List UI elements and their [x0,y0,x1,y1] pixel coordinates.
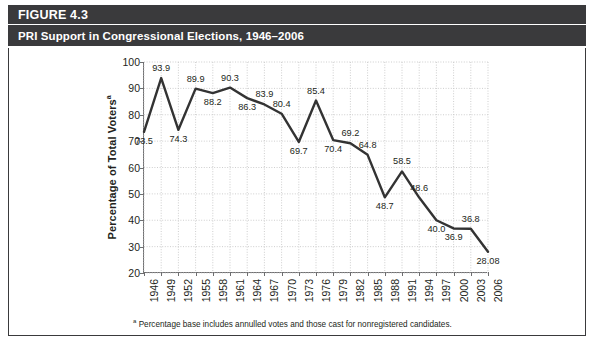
data-point-label: 86.3 [238,102,256,112]
x-axis-tick-mark [230,272,231,276]
data-point-label: 93.9 [152,63,170,73]
y-axis-tick-label: 100 [122,56,140,68]
x-axis-tick-mark [385,272,386,276]
x-axis-tick-label: 1991 [406,279,418,302]
x-axis-tick-mark [161,272,162,276]
x-axis-tick-mark [264,272,265,276]
x-axis-tick-label: 2000 [458,279,470,302]
x-axis-tick-label: 1961 [234,279,246,302]
x-axis-tick-mark [402,272,403,276]
y-axis-tick-mark [140,194,144,195]
x-axis-tick-mark [144,272,145,276]
y-axis-title-text: Percentage of Total Voters [105,99,117,239]
x-axis-tick-label: 1976 [320,279,332,302]
x-axis-tick-label: 1970 [286,279,298,302]
figure-container: FIGURE 4.3 PRI Support in Congressional … [0,0,594,347]
x-axis-tick-mark [196,272,197,276]
data-point-label: 89.9 [187,74,205,84]
y-axis-tick-label: 20 [128,267,140,279]
x-axis-tick-label: 2003 [475,279,487,302]
x-axis-tick-mark [419,272,420,276]
x-axis-tick-label: 1973 [303,279,315,302]
x-axis-tick-mark [471,272,472,276]
x-axis-tick-mark [299,272,300,276]
x-axis-tick-label: 1988 [389,279,401,302]
x-axis-tick-mark [247,272,248,276]
x-axis-tick-label: 2006 [492,279,504,302]
y-axis-tick-mark [140,220,144,221]
data-point-label: 48.6 [410,183,428,193]
data-point-label: 83.9 [255,89,273,99]
data-point-label: 80.4 [273,99,291,109]
data-point-label: 40.0 [427,224,445,234]
x-axis-tick-label: 1946 [148,279,160,302]
y-axis-tick-label: 40 [128,214,140,226]
y-axis-tick-label: 50 [128,188,140,200]
x-axis-tick-mark [316,272,317,276]
x-axis-tick-mark [178,272,179,276]
x-axis-tick-label: 1958 [217,279,229,302]
data-point-label: 36.8 [462,214,480,224]
data-point-label: 85.4 [307,86,325,96]
data-point-label: 90.3 [221,73,239,83]
x-axis-tick-mark [350,272,351,276]
x-axis-tick-label: 1979 [337,279,349,302]
plot-region: 2030405060708090100 19461949195219551958… [143,62,487,273]
x-axis-tick-mark [454,272,455,276]
y-axis-tick-label: 60 [128,162,140,174]
x-axis-tick-mark [488,272,489,276]
x-axis-tick-mark [282,272,283,276]
footnote: a Percentage base includes annulled vote… [133,318,563,329]
x-axis-tick-label: 1982 [354,279,366,302]
y-axis-tick-mark [140,168,144,169]
y-axis-tick-mark [140,62,144,63]
x-axis-tick-mark [333,272,334,276]
x-axis-tick-label: 1994 [423,279,435,302]
y-axis-title: Percentage of Total Votersa [104,62,118,273]
x-axis-tick-mark [368,272,369,276]
x-axis-tick-label: 1952 [182,279,194,302]
footnote-text: Percentage base includes annulled votes … [139,320,452,329]
data-point-label: 64.8 [359,140,377,150]
x-axis-tick-label: 1964 [251,279,263,302]
data-point-label: 58.5 [393,156,411,166]
data-point-label: 69.2 [341,128,359,138]
y-axis-title-superscript: a [105,95,112,99]
x-axis-tick-label: 1949 [165,279,177,302]
y-axis-tick-mark [140,88,144,89]
data-point-label: 88.2 [204,97,222,107]
data-point-label: 73.5 [135,136,153,146]
data-point-label: 70.4 [324,144,342,154]
y-axis-tick-label: 30 [128,241,140,253]
x-axis-tick-label: 1985 [372,279,384,302]
data-point-label: 69.7 [290,146,308,156]
x-axis-tick-label: 1955 [200,279,212,302]
x-axis-tick-mark [436,272,437,276]
data-point-label: 74.3 [169,134,187,144]
y-axis-tick-mark [140,115,144,116]
data-point-label: 48.7 [376,201,394,211]
x-axis-tick-label: 1997 [440,279,452,302]
chart-area: Percentage of Total Votersa 203040506070… [0,0,594,347]
data-point-label: 36.9 [445,232,463,242]
data-point-label: 28.08 [477,256,500,266]
y-axis-tick-mark [140,247,144,248]
x-axis-tick-label: 1967 [268,279,280,302]
y-axis-tick-label: 90 [128,82,140,94]
x-axis-tick-mark [213,272,214,276]
y-axis-tick-label: 80 [128,109,140,121]
footnote-marker: a [133,318,136,324]
